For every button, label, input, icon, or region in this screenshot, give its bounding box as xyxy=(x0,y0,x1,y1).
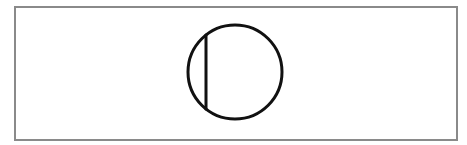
circle-shape xyxy=(188,25,282,119)
circle-chord-symbol-icon xyxy=(0,0,467,145)
